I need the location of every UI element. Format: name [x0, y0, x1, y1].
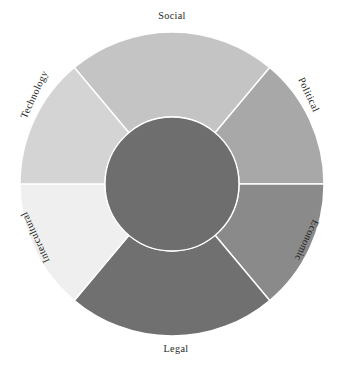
wheel-chart: SocialPoliticalEconomicLegalIntercultura… — [0, 0, 345, 369]
wheel-hub — [105, 117, 239, 251]
segment-label-social: Social — [158, 10, 186, 21]
pestle-wheel-figure: SocialPoliticalEconomicLegalIntercultura… — [0, 0, 345, 369]
segment-label-legal: Legal — [164, 343, 189, 354]
